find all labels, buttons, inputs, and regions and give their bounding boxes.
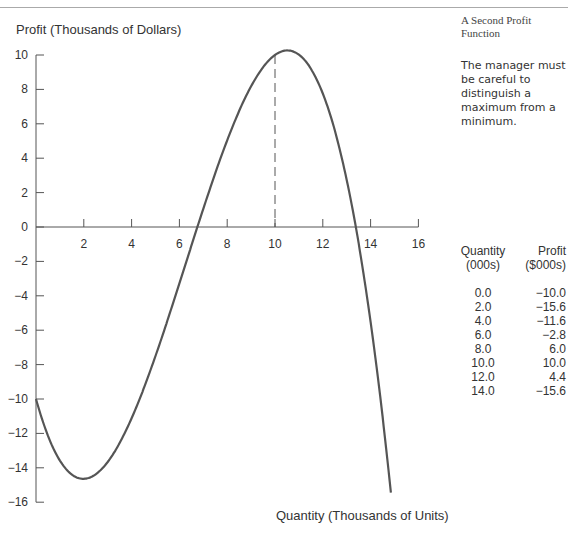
data-table: Quantity(000s) Profit($000s) 0.0−10.02.0…	[452, 244, 566, 398]
y-tick-label: 0	[21, 220, 28, 234]
quantity-cell: 2.0	[452, 300, 514, 314]
y-tick-label: 10	[15, 48, 29, 62]
header-profit: Profit($000s)	[514, 244, 566, 272]
quantity-cell: 0.0	[452, 286, 514, 300]
table-row: 8.06.0	[452, 342, 566, 356]
table-row: 14.0−15.6	[452, 384, 566, 398]
profit-cell: −11.6	[514, 314, 566, 328]
margin-note: The manager must be careful to distingui…	[461, 59, 566, 129]
x-tick-label: 2	[80, 237, 87, 251]
table-header-row: Quantity(000s) Profit($000s)	[452, 244, 566, 272]
x-tick-label: 16	[412, 237, 426, 251]
y-tick-label: −12	[8, 426, 29, 440]
y-tick-label: −4	[14, 289, 28, 303]
quantity-cell: 4.0	[452, 314, 514, 328]
y-tick-label: −2	[14, 254, 28, 268]
quantity-cell: 6.0	[452, 328, 514, 342]
table-row: 10.010.0	[452, 356, 566, 370]
profit-cell: −2.8	[514, 328, 566, 342]
profit-cell: 10.0	[514, 356, 566, 370]
table-row: 0.0−10.0	[452, 286, 566, 300]
y-tick-label: 8	[21, 82, 28, 96]
table-row: 6.0−2.8	[452, 328, 566, 342]
quantity-cell: 12.0	[452, 370, 514, 384]
profit-cell: 6.0	[514, 342, 566, 356]
table-row: 2.0−15.6	[452, 300, 566, 314]
x-tick-label: 12	[316, 237, 330, 251]
x-tick-label: 4	[128, 237, 135, 251]
quantity-cell: 14.0	[452, 384, 514, 398]
x-tick-label: 6	[176, 237, 183, 251]
quantity-cell: 10.0	[452, 356, 514, 370]
x-tick-label: 10	[268, 237, 282, 251]
y-tick-label: −16	[8, 495, 29, 509]
table-row: 4.0−11.6	[452, 314, 566, 328]
profit-curve	[36, 50, 391, 492]
x-tick-label: 8	[224, 237, 231, 251]
profit-cell: −10.0	[514, 286, 566, 300]
profit-cell: 4.4	[514, 370, 566, 384]
quantity-cell: 8.0	[452, 342, 514, 356]
table-row: 12.04.4	[452, 370, 566, 384]
figure-title: A Second Profit Function	[461, 14, 561, 40]
profit-cell: −15.6	[514, 300, 566, 314]
y-tick-label: 6	[21, 117, 28, 131]
y-tick-label: 4	[21, 151, 28, 165]
x-tick-label: 14	[364, 237, 378, 251]
y-tick-label: −8	[14, 358, 28, 372]
y-tick-label: −10	[8, 392, 29, 406]
header-quantity: Quantity(000s)	[452, 244, 514, 272]
y-tick-label: 2	[21, 186, 28, 200]
profit-cell: −15.6	[514, 384, 566, 398]
y-tick-label: −14	[8, 461, 29, 475]
y-tick-label: −6	[14, 323, 28, 337]
